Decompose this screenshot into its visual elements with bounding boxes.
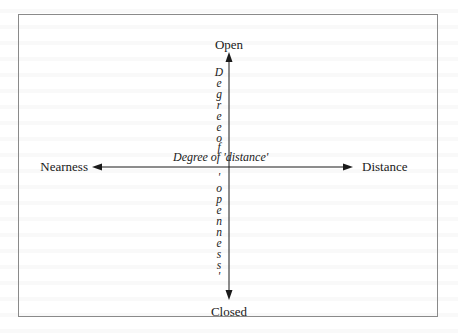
vertical-label-letter: ' bbox=[218, 271, 220, 282]
arrow-right-icon bbox=[343, 164, 353, 171]
pole-label-closed: Closed bbox=[211, 305, 247, 318]
vertical-axis-label-bottom: 'openness' bbox=[213, 172, 225, 282]
vertical-axis-label-mid: of bbox=[213, 133, 225, 151]
pole-label-distance: Distance bbox=[362, 160, 407, 173]
arrow-down-icon bbox=[226, 290, 233, 300]
pole-label-nearness: Nearness bbox=[40, 160, 88, 173]
vertical-axis-label-top: Degree bbox=[213, 67, 225, 133]
arrow-left-icon bbox=[92, 164, 102, 171]
vertical-label-letter: f bbox=[217, 142, 220, 151]
pole-label-open: Open bbox=[215, 38, 243, 51]
arrow-up-icon bbox=[226, 52, 233, 62]
